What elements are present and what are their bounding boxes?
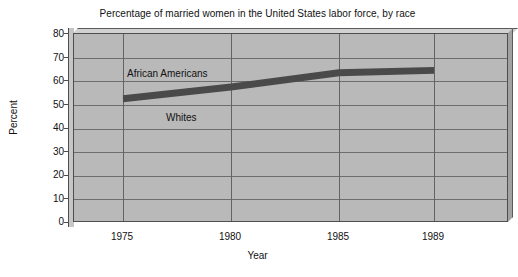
x-tick-label-1980: 1980 [200, 231, 260, 243]
y-tick-label: 80 [24, 29, 64, 39]
y-tick-label: 40 [24, 123, 64, 133]
y-axis-title: Percent [8, 73, 19, 163]
x-tick-label-1985: 1985 [308, 231, 368, 243]
chart-title: Percentage of married women in the Unite… [0, 8, 515, 19]
x-tick-label-1989: 1989 [403, 231, 463, 243]
series-lines [74, 34, 508, 222]
x-tick-label-1975: 1975 [92, 231, 152, 243]
x-axis-title: Year [0, 250, 515, 261]
x-axis-tick-labels: 1975 1980 1985 1989 [0, 231, 515, 247]
y-tick-label: 60 [24, 76, 64, 86]
y-tick-label: 50 [24, 100, 64, 110]
y-tick-label: 30 [24, 147, 64, 157]
series-label-whites: Whites [166, 112, 197, 123]
plot-block [68, 28, 513, 228]
y-tick-label: 20 [24, 170, 64, 180]
y-axis-tick-labels: 80 70 60 50 40 30 20 10 0 [18, 28, 64, 228]
plot-area [73, 33, 508, 222]
plot-bevel-right [508, 28, 513, 222]
y-tick-label: 0 [24, 217, 64, 227]
y-tick-label: 70 [24, 53, 64, 63]
y-tick-label: 10 [24, 194, 64, 204]
series-label-african-americans: African Americans [127, 68, 208, 79]
